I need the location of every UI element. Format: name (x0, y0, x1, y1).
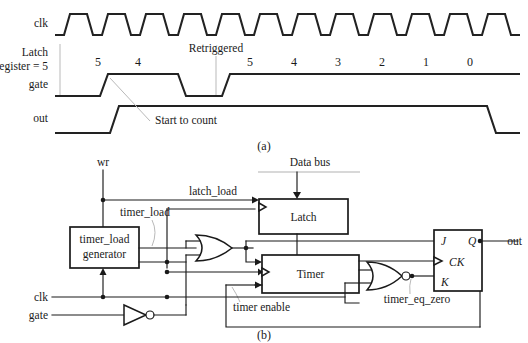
clk-junction-dot-generator (101, 295, 106, 300)
nor-gate-body[interactable] (367, 262, 402, 290)
count-value-b-0: 5 (247, 55, 253, 69)
jk-ck-input-label: CK (449, 256, 466, 268)
timing-label-out: out (33, 112, 49, 124)
count-value-b-4: 1 (423, 55, 429, 69)
generator-branch-dot (165, 260, 170, 265)
timer-load-generator-line2: generator (83, 248, 127, 261)
gate-input-label: gate (29, 309, 48, 322)
data-bus-label: Data bus (290, 156, 331, 168)
clk-waveform (55, 14, 520, 35)
or-output-to-timer-arrowhead (255, 259, 262, 266)
timing-label-latch-line1: Latch (22, 46, 48, 58)
out-waveform (55, 106, 520, 133)
count-value-b-1: 4 (291, 55, 297, 69)
timer-load-leader (152, 220, 155, 246)
data-bus-arrowhead (293, 192, 301, 199)
figure-root: clk Latch register = 5 gate out 5 4 Retr… (0, 0, 528, 343)
inverter-bubble-icon (146, 311, 154, 319)
clk-junction-dot-mid (165, 270, 170, 275)
timer-enable-leader (232, 287, 240, 302)
latch-load-net-label: latch_load (189, 185, 237, 197)
jk-q-output-label: Q (468, 235, 477, 247)
count-value-b-5: 0 (467, 55, 473, 69)
nor-gate-bubble-icon (402, 272, 410, 280)
timer-eq-zero-leader (410, 279, 411, 294)
timer-block-label: Timer (297, 268, 325, 280)
timer-load-generator-line1: timer_load (80, 233, 130, 245)
timing-label-clk: clk (34, 17, 48, 29)
timer-eq-zero-net-label: timer_eq_zero (384, 293, 451, 306)
timing-diagram-panel: clk Latch register = 5 gate out 5 4 Retr… (0, 14, 520, 153)
wr-input-label: wr (97, 156, 109, 168)
timer-load-net-label: timer_load (120, 206, 170, 218)
count-value-a-0: 5 (95, 55, 101, 69)
or-gate-body[interactable] (196, 235, 232, 261)
count-value-b-3: 2 (379, 55, 385, 69)
latch-load-arrowhead (252, 197, 259, 204)
timer-enable-net-label: timer enable (233, 301, 290, 313)
clk-to-generator-arrowhead (100, 268, 107, 275)
start-to-count-annotation: Start to count (155, 114, 218, 126)
jk-j-input-label: J (441, 235, 447, 247)
inverter-body[interactable] (124, 305, 146, 325)
timing-label-latch-line2: register = 5 (0, 60, 48, 73)
out-output-label: out (507, 235, 523, 247)
count-value-b-2: 3 (335, 55, 341, 69)
jk-k-input-label: K (440, 276, 450, 288)
clk-input-label: clk (34, 291, 48, 303)
clk-junction-dot-timer (165, 295, 170, 300)
or-output-to-timer-wire (246, 248, 255, 262)
gate-waveform (55, 74, 520, 96)
q-output-junction-dot (478, 239, 483, 244)
timer-enable-arrowhead (255, 282, 262, 289)
timing-label-gate: gate (29, 78, 48, 91)
nor-output-junction-dot (410, 274, 415, 279)
count-value-a-1: 4 (135, 55, 141, 69)
block-diagram-panel: Data bus wr latch_load timer_load timer_… (29, 156, 523, 342)
panel-b-caption: (b) (257, 328, 271, 342)
panel-a-caption: (a) (257, 139, 270, 153)
latch-block-label: Latch (290, 211, 316, 223)
retriggered-annotation: Retriggered (189, 42, 244, 55)
